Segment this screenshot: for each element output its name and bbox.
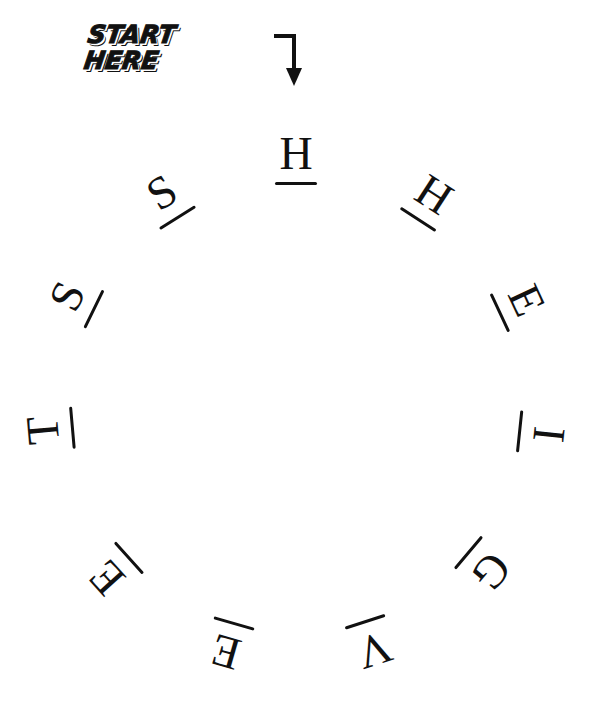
circle-letter: G: [463, 545, 518, 599]
letter-slot: T: [4, 396, 89, 463]
letter-underline: [69, 407, 76, 449]
letter-slot: E: [60, 526, 160, 624]
letter-slot: I: [502, 400, 588, 468]
circle-letter: S: [42, 275, 93, 317]
letter-underline: [275, 182, 317, 185]
letter-slot: H: [266, 118, 326, 198]
letter-slot: G: [438, 520, 538, 617]
circle-letter: E: [81, 553, 133, 603]
circle-letter: H: [279, 132, 312, 176]
circle-letter: E: [206, 628, 245, 678]
letter-slot: V: [332, 598, 414, 693]
letter-slot: E: [187, 602, 267, 695]
circle-letter: V: [352, 624, 397, 676]
letter-slot: E: [474, 258, 572, 346]
circle-letter: H: [409, 167, 461, 222]
circle-letter: I: [526, 425, 571, 445]
circle-letter: T: [19, 414, 65, 446]
letter-underline: [516, 410, 523, 452]
circle-letter: E: [501, 278, 553, 322]
letter-circle: H H E I G V E E T S S: [0, 0, 603, 728]
letter-slot: S: [22, 254, 120, 343]
letter-slot: H: [385, 148, 479, 248]
circle-letter: S: [139, 167, 184, 218]
letter-slot: S: [117, 146, 210, 246]
